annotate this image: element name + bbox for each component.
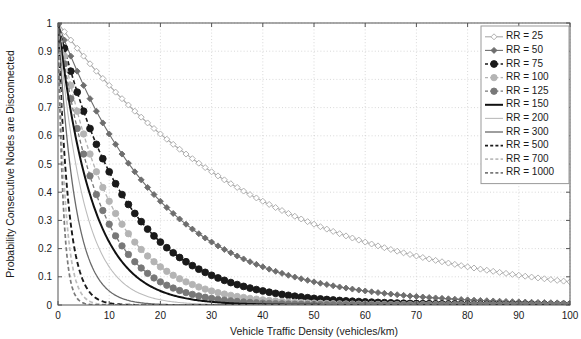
legend[interactable]: RR = 25RR = 50RR = 75RR = 100RR = 125RR … — [481, 26, 569, 184]
x-tick-label: 10 — [104, 310, 116, 321]
legend-label: RR = 300 — [506, 126, 549, 137]
y-tick-label: 0.7 — [38, 102, 52, 113]
x-tick-label: 80 — [462, 310, 474, 321]
legend-label: RR = 100 — [506, 71, 549, 82]
y-axis-title: Probability Consecutive Nodes are Discon… — [4, 50, 16, 278]
legend-label: RR = 125 — [506, 85, 549, 96]
legend-label: RR = 700 — [506, 153, 549, 164]
y-tick-label: 0.1 — [38, 271, 52, 282]
y-tick-label: 0.5 — [38, 159, 52, 170]
chart-screenshot: 010203040506070809010000.10.20.30.40.50.… — [0, 0, 581, 339]
x-tick-label: 100 — [562, 310, 579, 321]
probability-disconnection-plot: 010203040506070809010000.10.20.30.40.50.… — [0, 0, 581, 339]
y-tick-label: 0.6 — [38, 130, 52, 141]
x-tick-label: 40 — [257, 310, 269, 321]
x-tick-label: 90 — [513, 310, 525, 321]
legend-label: RR = 1000 — [506, 166, 555, 177]
y-tick-label: 0.9 — [38, 46, 52, 57]
y-tick-label: 0.2 — [38, 243, 52, 254]
x-tick-label: 60 — [360, 310, 372, 321]
x-tick-label: 30 — [206, 310, 218, 321]
legend-label: RR = 200 — [506, 112, 549, 123]
y-tick-label: 0 — [46, 300, 52, 311]
legend-label: RR = 150 — [506, 98, 549, 109]
y-tick-label: 1 — [46, 18, 52, 29]
legend-label: RR = 25 — [506, 30, 543, 41]
y-tick-label: 0.4 — [38, 187, 52, 198]
x-tick-label: 20 — [155, 310, 167, 321]
x-tick-label: 50 — [308, 310, 320, 321]
chart-canvas: 010203040506070809010000.10.20.30.40.50.… — [0, 0, 581, 339]
x-axis-title: Vehicle Traffic Density (vehicles/km) — [230, 325, 398, 337]
y-tick-label: 0.3 — [38, 215, 52, 226]
legend-label: RR = 75 — [506, 58, 543, 69]
legend-label: RR = 500 — [506, 139, 549, 150]
x-tick-label: 0 — [55, 310, 61, 321]
y-tick-label: 0.8 — [38, 74, 52, 85]
legend-label: RR = 50 — [506, 44, 543, 55]
x-tick-label: 70 — [411, 310, 423, 321]
